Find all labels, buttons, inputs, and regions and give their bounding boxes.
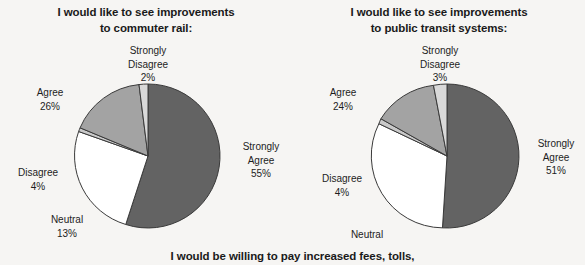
bottom-caption: I would be willing to pay increased fees… xyxy=(0,248,585,264)
slice-label-strongly-agree: Strongly Agree 55% xyxy=(224,140,298,181)
slice-label-strongly-disagree: Strongly Disagree 2% xyxy=(103,44,193,85)
pie-slices-public-transit xyxy=(371,84,519,228)
slice-label-neutral: Neutral 13% xyxy=(32,213,102,240)
slice-label-neutral: Neutral xyxy=(332,228,402,242)
figure-page: I would like to see improvements to comm… xyxy=(0,0,585,265)
slice-label-disagree: Disagree 4% xyxy=(307,172,377,199)
slice-label-strongly-disagree: Strongly Disagree 3% xyxy=(395,44,485,85)
slice-strongly-agree xyxy=(442,84,518,228)
pie-svg-public-transit xyxy=(293,0,585,240)
pie-slices-commuter-rail xyxy=(75,84,221,228)
pie-svg-commuter-rail xyxy=(0,0,292,240)
pie-chart-commuter-rail xyxy=(0,0,292,240)
slice-label-agree: Agree 26% xyxy=(15,86,85,113)
slice-label-disagree: Disagree 4% xyxy=(3,166,73,193)
pie-chart-public-transit xyxy=(293,0,585,240)
slice-label-agree: Agree 24% xyxy=(308,86,378,113)
chart-panel-public-transit: I would like to see improvements to publ… xyxy=(293,0,585,240)
slice-label-strongly-agree: Strongly Agree 51% xyxy=(519,137,585,178)
chart-panel-commuter-rail: I would like to see improvements to comm… xyxy=(0,0,292,240)
